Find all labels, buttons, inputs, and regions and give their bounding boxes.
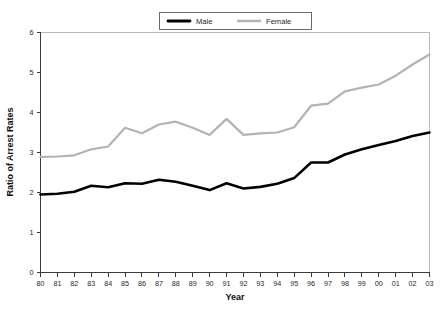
x-axis-title: Year xyxy=(225,292,245,302)
x-tick-label: 89 xyxy=(189,279,197,288)
y-tick-label: 1 xyxy=(30,228,34,237)
x-tick-label: 96 xyxy=(307,279,315,288)
x-tick-label: 97 xyxy=(324,279,332,288)
x-tick-label: 85 xyxy=(121,279,129,288)
y-tick-label: 0 xyxy=(30,268,34,277)
y-axis-title: Ratio of Arrest Rates xyxy=(5,107,15,196)
x-tick-label: 93 xyxy=(256,279,264,288)
y-tick-label: 2 xyxy=(30,188,34,197)
y-tick-label: 5 xyxy=(30,68,34,77)
chart-legend: Male Female xyxy=(160,13,312,30)
y-tick-label: 4 xyxy=(30,108,34,117)
line-chart-svg: 0123456 80818283848586878889909192939495… xyxy=(0,0,444,309)
x-tick-label: 00 xyxy=(375,279,383,288)
x-tick-label: 81 xyxy=(53,279,61,288)
x-tick-label: 90 xyxy=(206,279,214,288)
x-tick-label: 80 xyxy=(37,279,45,288)
x-tick-label: 94 xyxy=(273,279,281,288)
x-tick-label: 98 xyxy=(341,279,349,288)
plot-area-frame xyxy=(41,33,430,273)
x-tick-label: 91 xyxy=(223,279,231,288)
x-tick-label: 01 xyxy=(392,279,400,288)
x-tick-label: 99 xyxy=(358,279,366,288)
x-tick-label: 92 xyxy=(239,279,247,288)
x-tick-label: 82 xyxy=(70,279,78,288)
x-tick-label: 95 xyxy=(290,279,298,288)
legend-label-male: Male xyxy=(196,17,212,26)
x-tick-label: 03 xyxy=(426,279,434,288)
x-tick-label: 86 xyxy=(138,279,146,288)
x-tick-label: 84 xyxy=(104,279,112,288)
y-tick-label: 3 xyxy=(30,148,34,157)
x-tick-label: 88 xyxy=(172,279,180,288)
y-axis-ticks: 0123456 xyxy=(30,28,41,277)
series-line-female xyxy=(41,55,430,157)
x-tick-label: 87 xyxy=(155,279,163,288)
data-series-layer xyxy=(41,55,430,195)
x-tick-label: 02 xyxy=(409,279,417,288)
series-line-male xyxy=(41,133,430,195)
y-tick-label: 6 xyxy=(30,28,34,37)
x-tick-label: 83 xyxy=(87,279,95,288)
legend-label-female: Female xyxy=(266,17,291,26)
chart-figure: 0123456 80818283848586878889909192939495… xyxy=(0,0,444,309)
x-axis-ticks: 8081828384858687888990919293949596979899… xyxy=(37,273,434,288)
